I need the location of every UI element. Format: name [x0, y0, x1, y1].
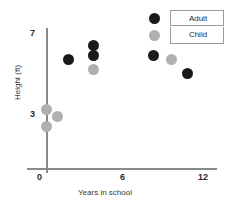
scatter-plot: 7 3 0 6 12 Years in school Height (ft) A…: [0, 0, 229, 205]
legend-swatch-adult-icon: [149, 13, 160, 24]
legend-item-child[interactable]: Child: [148, 27, 226, 44]
data-point-adult: [88, 50, 99, 61]
legend-item-adult[interactable]: Adult: [148, 10, 226, 27]
legend-swatch-child-icon: [149, 30, 160, 41]
data-point-child: [41, 121, 52, 132]
legend-box-adult: Adult: [170, 10, 224, 26]
y-axis-title: Height (ft): [13, 53, 22, 113]
data-point-child: [52, 111, 63, 122]
data-point-adult: [148, 50, 159, 61]
data-point-child: [166, 54, 177, 65]
data-point-adult: [63, 54, 74, 65]
x-tick-label-0: 0: [37, 172, 42, 182]
data-point-child: [41, 104, 52, 115]
legend-label-child: Child: [171, 27, 225, 42]
y-tick-label-7: 7: [30, 28, 35, 38]
y-axis-line: [46, 28, 48, 173]
x-tick-label-12: 12: [198, 172, 208, 182]
data-point-child: [88, 64, 99, 75]
legend-label-adult: Adult: [171, 11, 225, 26]
x-axis-line: [27, 168, 217, 170]
data-point-adult: [182, 68, 193, 79]
legend: Adult Child: [148, 10, 226, 44]
y-tick-label-3: 3: [30, 109, 35, 119]
data-point-adult: [88, 40, 99, 51]
legend-box-child: Child: [170, 27, 224, 44]
x-tick-label-6: 6: [120, 172, 125, 182]
x-axis-title: Years in school: [78, 188, 132, 197]
